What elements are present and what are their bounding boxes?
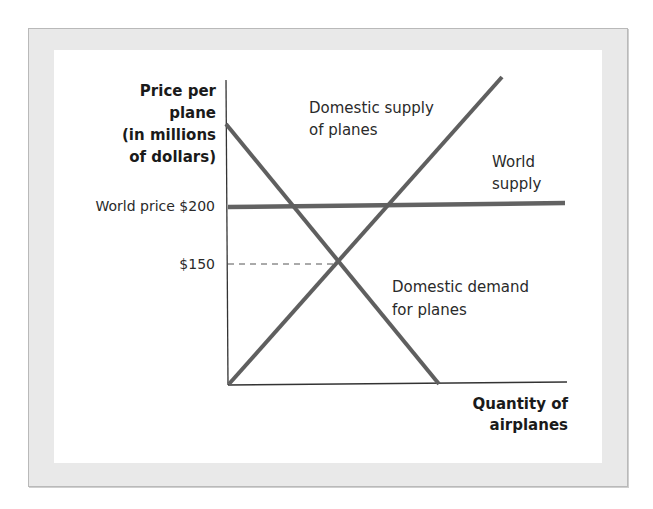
- domestic-demand-line: [226, 124, 439, 384]
- y-axis-title-line: of dollars): [100, 146, 216, 168]
- x-axis-title: Quantity of airplanes: [420, 394, 568, 436]
- world-supply-line: [228, 203, 565, 207]
- y-axis-title-line: Price per: [100, 80, 216, 102]
- domestic-demand-label-line: for planes: [392, 299, 529, 322]
- y-axis-title-line: plane: [100, 102, 216, 124]
- domestic-supply-label-line: of planes: [309, 119, 434, 141]
- domestic-supply-label: Domestic supply of planes: [309, 97, 434, 141]
- world-supply-label-line: World: [492, 151, 541, 173]
- x-axis-title-line: Quantity of: [420, 394, 568, 415]
- domestic-demand-label-line: Domestic demand: [392, 276, 529, 299]
- y-axis-title-line: (in millions: [100, 124, 216, 146]
- x-axis: [228, 382, 567, 385]
- x-axis-title-line: airplanes: [420, 415, 568, 436]
- domestic-supply-label-line: Domestic supply: [309, 97, 434, 119]
- world-price-tick-label: World price $200: [60, 197, 215, 216]
- y-axis-title: Price per plane (in millions of dollars): [100, 80, 216, 168]
- domestic-demand-label: Domestic demand for planes: [392, 276, 529, 322]
- price-150-tick-label: $150: [140, 255, 215, 274]
- world-supply-label: World supply: [492, 151, 541, 195]
- world-supply-label-line: supply: [492, 173, 541, 195]
